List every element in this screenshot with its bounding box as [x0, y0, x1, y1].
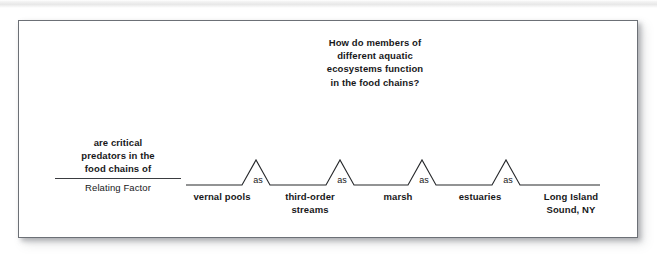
node-label-long-island-sound: Long Island Sound, NY: [522, 190, 620, 216]
concept-map-link-line: as as as as: [180, 152, 626, 192]
page-top-band: [0, 0, 657, 8]
node-0-line-1: vernal pools: [180, 190, 264, 203]
node-2-line-1: marsh: [356, 190, 440, 203]
node-1-line-2: streams: [264, 203, 356, 216]
heading-line-4: in the food chains?: [255, 76, 495, 89]
link-baseline-path: [186, 160, 600, 185]
relating-factor-phrase: are critical predators in the food chain…: [52, 136, 184, 176]
link-label-as-3: as: [419, 175, 429, 185]
link-label-as-2: as: [337, 175, 347, 185]
heading-line-2: different aquatic: [255, 49, 495, 62]
heading-line-1: How do members of: [255, 36, 495, 49]
relating-factor-block: are critical predators in the food chain…: [52, 136, 184, 195]
figure-heading: How do members of different aquatic ecos…: [255, 36, 495, 89]
node-label-vernal-pools: vernal pools: [180, 190, 264, 203]
relating-phrase-line-1: are critical: [52, 136, 184, 149]
node-label-estuaries: estuaries: [438, 190, 522, 203]
node-3-line-1: estuaries: [438, 190, 522, 203]
heading-line-3: ecosystems function: [255, 62, 495, 75]
link-label-as-1: as: [253, 175, 263, 185]
node-label-marsh: marsh: [356, 190, 440, 203]
node-label-third-order-streams: third-order streams: [264, 190, 356, 216]
relating-phrase-line-2: predators in the: [52, 149, 184, 162]
link-label-as-4: as: [503, 175, 513, 185]
node-4-line-2: Sound, NY: [522, 203, 620, 216]
node-1-line-1: third-order: [264, 190, 356, 203]
relating-factor-caption: Relating Factor: [52, 179, 184, 195]
node-4-line-1: Long Island: [522, 190, 620, 203]
relating-phrase-line-3: food chains of: [52, 162, 184, 175]
